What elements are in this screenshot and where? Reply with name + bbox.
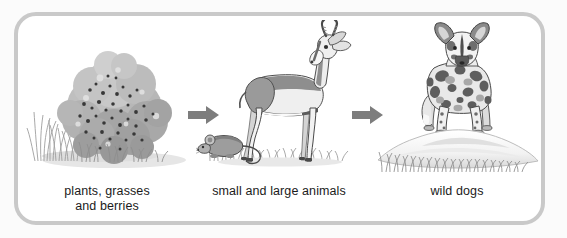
wild-dog-right-eye-icon	[467, 46, 471, 50]
berry-bush-illustration	[22, 20, 192, 178]
gazelle-and-mouse-illustration	[196, 20, 362, 178]
food-chain-figure: plants, grasses and berries	[0, 0, 567, 238]
gazelle-icon	[240, 20, 351, 162]
panel-consumers	[196, 20, 362, 180]
caption-producers-line-2: and berries	[22, 199, 192, 214]
mound-icon	[378, 130, 538, 168]
bush-foliage-icon	[57, 51, 172, 164]
caption-predators-line-1: wild dogs	[372, 184, 542, 199]
gazelle-eye-icon	[324, 45, 328, 49]
panel-producers	[22, 20, 192, 180]
caption-predators: wild dogs	[372, 184, 542, 199]
gazelle-horns-icon	[322, 20, 337, 36]
wild-dog-icon	[422, 23, 492, 136]
caption-consumers-line-1: small and large animals	[190, 184, 368, 199]
caption-producers-line-1: plants, grasses	[22, 184, 192, 199]
panel-predators	[372, 20, 542, 180]
wild-dog-nose-icon	[459, 61, 464, 65]
caption-consumers: small and large animals	[190, 184, 368, 199]
wild-dog-left-eye-icon	[453, 46, 457, 50]
wild-dog-illustration	[372, 20, 542, 178]
caption-producers: plants, grasses and berries	[22, 184, 192, 214]
gazelle-nose-icon	[311, 61, 314, 64]
mouse-eye-icon	[202, 146, 204, 148]
diagram-stage: plants, grasses and berries	[0, 0, 567, 238]
ground-shadow-icon	[218, 158, 342, 167]
